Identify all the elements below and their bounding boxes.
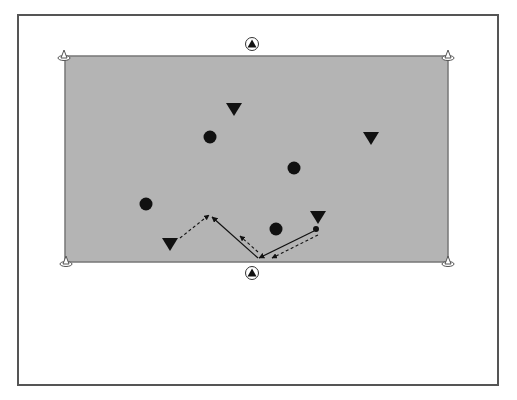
field (65, 56, 448, 262)
goal-marker-bottom-icon (246, 267, 259, 280)
field-layer (65, 56, 448, 262)
ball-icon (313, 226, 319, 232)
circle-player-icon (270, 223, 283, 236)
drill-diagram (0, 0, 517, 400)
circle-player-icon (204, 131, 217, 144)
circle-player-icon (140, 198, 153, 211)
circle-player-icon (288, 162, 301, 175)
goal-marker-top-icon (246, 38, 259, 51)
